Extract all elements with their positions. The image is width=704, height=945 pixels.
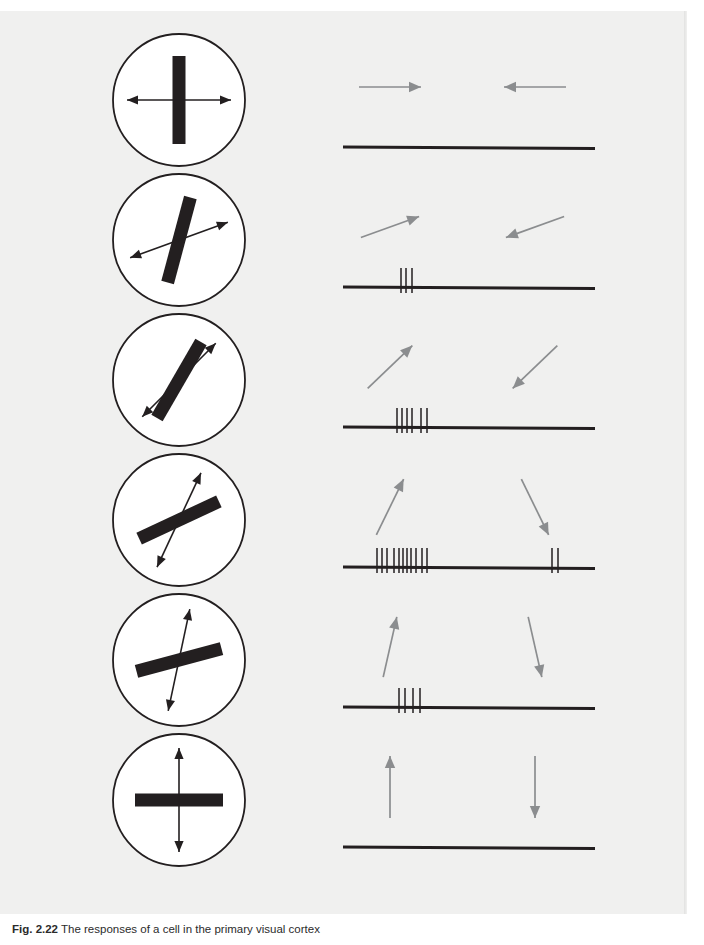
time-baseline bbox=[343, 147, 595, 149]
figure-caption-text: The responses of a cell in the primary v… bbox=[61, 923, 320, 935]
figure-caption: Fig. 2.22 The responses of a cell in the… bbox=[12, 922, 672, 936]
figure-page: Fig. 2.22 The responses of a cell in the… bbox=[0, 0, 704, 945]
motion-arrow-first-half bbox=[385, 756, 395, 818]
stimulus-response-row bbox=[0, 729, 687, 869]
time-baseline bbox=[343, 707, 595, 709]
motion-arrow-first-half bbox=[376, 479, 403, 535]
stimulus-aperture bbox=[108, 449, 250, 591]
spike-train bbox=[399, 688, 420, 713]
response-raster bbox=[335, 589, 610, 731]
time-baseline bbox=[343, 567, 595, 569]
response-cell bbox=[335, 589, 610, 731]
stimulus-response-row bbox=[0, 169, 687, 309]
motion-arrow-first-half bbox=[368, 346, 413, 389]
motion-arrow-second-half bbox=[521, 479, 548, 535]
response-cell bbox=[335, 309, 610, 451]
stimulus-response-row bbox=[0, 309, 687, 449]
response-cell bbox=[335, 169, 610, 311]
time-baseline bbox=[343, 287, 595, 289]
motion-arrow-second-half bbox=[506, 216, 564, 238]
stimulus-response-row bbox=[0, 449, 687, 589]
time-baseline bbox=[343, 427, 595, 429]
response-cell bbox=[335, 729, 610, 871]
stimulus-aperture bbox=[108, 729, 250, 871]
response-raster bbox=[335, 309, 610, 451]
response-cell bbox=[335, 29, 610, 171]
stimulus-aperture bbox=[108, 309, 250, 451]
motion-arrow-second-half bbox=[504, 82, 566, 92]
figure-panel bbox=[0, 11, 687, 891]
motion-arrow-first-half bbox=[361, 216, 419, 238]
stimulus-cell bbox=[108, 449, 250, 591]
stimulus-cell bbox=[108, 29, 250, 171]
motion-arrow-first-half bbox=[383, 617, 399, 677]
spike-train bbox=[401, 268, 412, 293]
stimulus-cell bbox=[108, 589, 250, 731]
spike-train bbox=[397, 408, 427, 433]
stimulus-cell bbox=[108, 729, 250, 871]
response-raster bbox=[335, 449, 610, 591]
response-raster bbox=[335, 169, 610, 311]
stimulus-aperture bbox=[108, 589, 250, 731]
figure-caption-label: Fig. 2.22 bbox=[12, 923, 58, 935]
motion-arrow-second-half bbox=[513, 346, 558, 389]
stimulus-response-row bbox=[0, 29, 687, 169]
response-raster bbox=[335, 729, 610, 871]
motion-arrow-second-half bbox=[530, 756, 540, 818]
stimulus-cell bbox=[108, 169, 250, 311]
stimulus-cell bbox=[108, 309, 250, 451]
motion-arrow-first-half bbox=[359, 82, 421, 92]
response-cell bbox=[335, 449, 610, 591]
stimulus-response-row bbox=[0, 589, 687, 729]
motion-arrow-second-half bbox=[528, 617, 544, 677]
time-baseline bbox=[343, 847, 595, 849]
response-raster bbox=[335, 29, 610, 171]
stimulus-aperture bbox=[108, 29, 250, 171]
stimulus-aperture bbox=[108, 169, 250, 311]
